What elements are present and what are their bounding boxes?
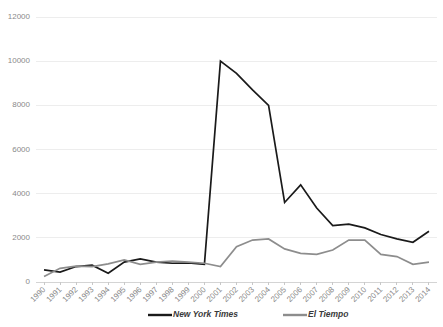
y-axis-tick-label: 12000 — [8, 12, 31, 21]
x-axis-tick-label: 1996 — [125, 285, 144, 304]
chart-legend: New York TimesEl Tiempo — [148, 309, 348, 319]
x-axis-tick-label: 1993 — [77, 285, 96, 304]
x-axis-tick-label: 1992 — [61, 285, 80, 304]
x-axis-tick-label: 2006 — [285, 285, 304, 304]
x-axis-tick-label: 2005 — [269, 285, 288, 304]
x-axis-tick-label: 2010 — [349, 285, 368, 304]
y-axis-tick-label: 10000 — [8, 56, 31, 65]
line-chart: 020004000600080001000012000 199019911992… — [0, 0, 443, 327]
x-axis-tick-label: 1997 — [141, 285, 160, 304]
x-axis-tick-label: 2003 — [237, 285, 256, 304]
legend-label-2: El Tiempo — [308, 309, 348, 319]
x-axis-tick-label: 2009 — [333, 285, 352, 304]
x-axis-tick-label: 2002 — [221, 285, 240, 304]
gridlines-group — [36, 17, 437, 282]
x-axis-tick-label: 1999 — [173, 285, 192, 304]
x-axis-tick-label: 2007 — [301, 285, 320, 304]
x-axis-tick-label: 2008 — [317, 285, 336, 304]
y-axis-tick-label: 4000 — [12, 189, 30, 198]
x-axis-tick-label: 2013 — [397, 285, 416, 304]
x-axis-tick-label: 2001 — [205, 285, 224, 304]
x-axis-tick-label: 2000 — [189, 285, 208, 304]
x-axis-tick-label: 2011 — [366, 285, 385, 304]
y-axis-tick-label: 0 — [26, 277, 31, 286]
x-axis-tick-label: 1998 — [157, 285, 176, 304]
x-axis-labels-group: 1990199119921993199419951996199719981999… — [28, 285, 432, 304]
legend-label-1: New York Times — [173, 309, 238, 319]
y-axis-labels-group: 020004000600080001000012000 — [8, 12, 31, 286]
x-axis-tick-label: 1995 — [109, 285, 128, 304]
series-line-1 — [44, 61, 429, 273]
x-axis-tick-label: 2004 — [253, 285, 272, 304]
x-axis-tick-label: 2014 — [413, 285, 432, 304]
x-axis-tick-label: 1991 — [45, 285, 64, 304]
y-axis-tick-label: 6000 — [12, 145, 30, 154]
x-axis-tick-label: 1990 — [28, 285, 47, 304]
series-lines-group — [44, 61, 429, 276]
y-axis-tick-label: 8000 — [12, 100, 30, 109]
y-axis-tick-label: 2000 — [12, 233, 30, 242]
x-axis-tick-label: 1994 — [93, 285, 112, 304]
chart-canvas: 020004000600080001000012000 199019911992… — [0, 0, 443, 327]
x-axis-tick-label: 2012 — [381, 285, 400, 304]
